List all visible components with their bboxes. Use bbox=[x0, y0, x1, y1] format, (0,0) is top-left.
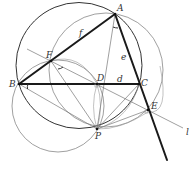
diagram-canvas: A B C D E F P f e d l bbox=[0, 0, 195, 170]
label-b: B bbox=[8, 79, 16, 89]
label-c: C bbox=[141, 78, 148, 88]
label-segment-e: e bbox=[121, 52, 126, 62]
label-d: D bbox=[96, 73, 104, 83]
label-segment-d: d bbox=[117, 74, 123, 84]
segment-fp bbox=[51, 61, 97, 129]
segment-ap bbox=[97, 14, 115, 129]
label-line-l: l bbox=[186, 127, 189, 137]
point-d bbox=[96, 83, 99, 86]
label-p: P bbox=[94, 131, 102, 141]
point-e bbox=[147, 109, 150, 112]
geometry-diagram: A B C D E F P f e d l bbox=[0, 0, 195, 170]
arc-dp-right bbox=[97, 84, 101, 129]
angle-mark-f bbox=[58, 67, 63, 69]
segment-ep bbox=[97, 110, 148, 129]
angle-mark-b bbox=[27, 84, 28, 89]
arc-dp-left bbox=[94, 84, 98, 129]
angle-mark-a bbox=[113, 27, 118, 28]
label-f: F bbox=[45, 50, 53, 60]
label-e: E bbox=[150, 101, 158, 111]
point-b bbox=[18, 83, 21, 86]
point-a bbox=[114, 13, 117, 16]
label-a: A bbox=[116, 3, 124, 13]
point-c bbox=[138, 83, 141, 86]
point-f bbox=[50, 60, 53, 63]
circumcircle-abc bbox=[16, 3, 142, 129]
point-p bbox=[96, 128, 99, 131]
